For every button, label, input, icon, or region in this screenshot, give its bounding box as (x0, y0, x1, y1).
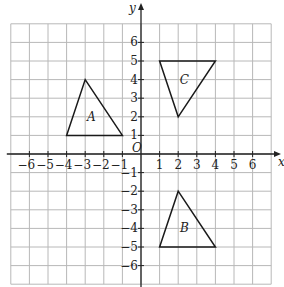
x-tick-label: 1 (156, 158, 164, 172)
x-tick-label: 3 (193, 158, 201, 172)
x-tick-label: −4 (55, 158, 73, 172)
x-tick-label: −5 (36, 158, 54, 172)
y-axis-arrow-icon (138, 3, 144, 10)
y-tick-label: 5 (130, 54, 138, 68)
triangle-a (67, 80, 123, 136)
y-tick-label: −4 (120, 221, 138, 235)
y-tick-label: 4 (130, 73, 138, 87)
triangle-label-a: A (86, 110, 96, 124)
triangle-label-b: B (179, 221, 189, 235)
x-tick-label: 2 (174, 158, 182, 172)
x-tick-label: 5 (230, 158, 238, 172)
origin-label: O (132, 141, 142, 155)
y-tick-label: −6 (120, 259, 138, 273)
triangle-label-c: C (180, 73, 189, 87)
triangle-c (160, 61, 216, 117)
y-tick-label: 1 (130, 128, 138, 142)
coordinate-grid: xyO −6−5−4−3−2−1123456654321−1−2−3−4−5−6… (0, 0, 284, 287)
y-axis-label: y (128, 1, 136, 15)
y-tick-label: −5 (120, 240, 138, 254)
x-tick-label: 4 (212, 158, 220, 172)
y-tick-label: 3 (130, 91, 138, 105)
y-tick-label: 2 (130, 110, 138, 124)
y-tick-label: −2 (120, 184, 138, 198)
y-tick-label: −3 (120, 203, 138, 217)
y-tick-label: 6 (130, 35, 138, 49)
triangle-b (160, 191, 216, 247)
x-tick-label: −3 (73, 158, 91, 172)
x-tick-label: 6 (249, 158, 257, 172)
x-tick-label: −6 (18, 158, 36, 172)
x-tick-label: −2 (92, 158, 110, 172)
x-axis-label: x (278, 155, 284, 169)
y-tick-label: −1 (120, 166, 138, 180)
